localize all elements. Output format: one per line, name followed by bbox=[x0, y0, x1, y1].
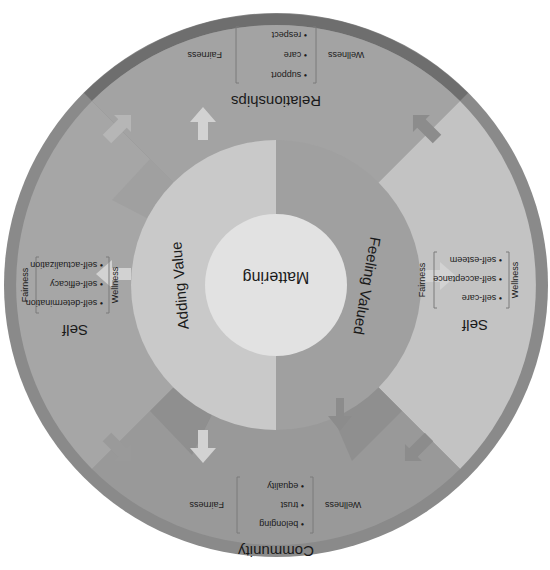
fairness-label: Fairness bbox=[20, 267, 30, 302]
quadrant-title: Self bbox=[61, 322, 88, 339]
list-item: • support bbox=[271, 70, 307, 80]
quadrant-title: Relationships bbox=[231, 93, 321, 110]
wellness-label: Wellness bbox=[325, 500, 362, 510]
quadrant-title: Community bbox=[238, 543, 314, 560]
list-item: • self-acceptance bbox=[433, 274, 502, 284]
list-item: • self-care bbox=[462, 293, 502, 303]
fairness-label: Fairness bbox=[417, 262, 427, 297]
list-item: • trust bbox=[280, 500, 304, 510]
list-item: • self-esteem bbox=[450, 255, 502, 265]
fairness-label: Fairness bbox=[189, 500, 224, 510]
wellness-label: Wellness bbox=[510, 261, 520, 298]
center-label: Mattering bbox=[243, 269, 310, 286]
list-item: • equality bbox=[267, 481, 304, 491]
list-item: • self-determination bbox=[26, 298, 103, 308]
wellness-label: Wellness bbox=[328, 50, 365, 60]
mattering-diagram: Mattering Adding Value Feeling Valued Re… bbox=[0, 0, 550, 570]
list-item: • respect bbox=[271, 30, 307, 40]
list-item: • care bbox=[284, 50, 307, 60]
list-item: • self-efficacy bbox=[49, 279, 103, 289]
fairness-label: Fairness bbox=[187, 50, 222, 60]
list-item: • self-actualization bbox=[30, 260, 103, 270]
wellness-label: Wellness bbox=[110, 266, 120, 303]
list-item: • belonging bbox=[259, 519, 304, 529]
quadrant-title: Self bbox=[461, 317, 488, 334]
